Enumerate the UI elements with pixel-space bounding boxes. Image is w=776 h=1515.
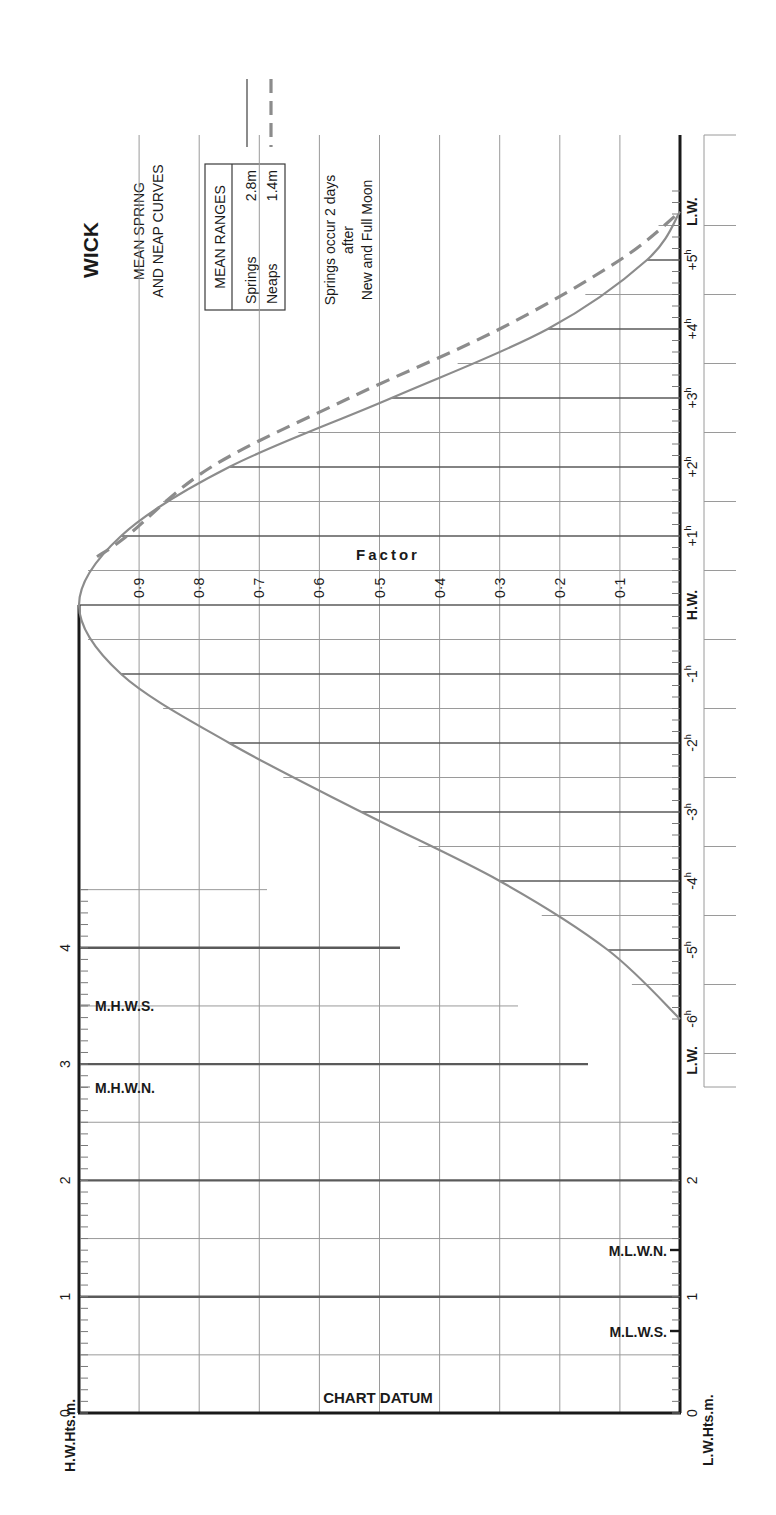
mean-ranges-header: MEAN RANGES — [212, 185, 228, 288]
factor-tick-label: 0·7 — [251, 578, 267, 598]
springs-label: Springs — [243, 257, 259, 304]
tidal-curve-diagram: WICK MEAN SPRING AND NEAP CURVES MEAN RA… — [0, 0, 776, 1515]
time-label-p3: +3h — [683, 388, 700, 409]
lw-height-labels: 012 — [684, 1176, 700, 1417]
time-label-lw_start: L.W. — [684, 1046, 700, 1075]
factor-tick-label: 0·5 — [372, 578, 388, 598]
note-line-1: Springs occur 2 days — [322, 175, 338, 306]
hw-height-tick-label: 2 — [57, 1176, 73, 1184]
lw-height-tick-label: 2 — [684, 1176, 700, 1184]
side-time-box — [704, 135, 736, 1087]
factor-grid — [139, 135, 620, 1413]
hw-height-tick-label: 3 — [57, 1060, 73, 1068]
mlws-label: M.L.W.S. — [609, 1324, 667, 1340]
mean-ranges-box: MEAN RANGES Springs 2.8m Neaps 1.4m — [205, 164, 285, 310]
hw-height-tick-label: 4 — [57, 944, 73, 952]
station-title: WICK — [79, 222, 102, 278]
lw-axis-title: L.W.Hts.m. — [700, 1394, 716, 1466]
mhws-label: M.H.W.S. — [95, 998, 154, 1014]
springs-value: 2.8m — [243, 170, 259, 201]
factor-tick-label: 0·1 — [612, 578, 628, 598]
time-label-m2: -2h — [683, 734, 700, 751]
time-label-m5: -5h — [683, 941, 700, 958]
time-label-p2: +2h — [683, 457, 700, 478]
time-label-p1: +1h — [683, 526, 700, 547]
factor-tick-label: 0·3 — [492, 578, 508, 598]
hw-height-tick-label: 1 — [57, 1293, 73, 1301]
mlwn-label: M.L.W.N. — [609, 1243, 667, 1259]
time-label-m4: -4h — [683, 872, 700, 889]
note-line-2: after — [340, 226, 356, 254]
time-label-p5: +5h — [683, 250, 700, 271]
factor-axis-label: Factor — [356, 546, 420, 563]
hw-axis-title: H.W.Hts.m. — [62, 1399, 78, 1472]
subtitle-line-2: AND NEAP CURVES — [150, 164, 166, 297]
lw-height-tick-label: 1 — [684, 1293, 700, 1301]
time-label-m3: -3h — [683, 803, 700, 820]
time-label-m6: -6h — [683, 1010, 700, 1027]
neaps-curve — [97, 212, 680, 557]
factor-tick-label: 0·6 — [311, 578, 327, 598]
neaps-label: Neaps — [264, 264, 280, 304]
time-label-p4: +4h — [683, 319, 700, 340]
factor-tick-label: 0·8 — [191, 578, 207, 598]
hw-height-labels: 01234 — [57, 944, 73, 1417]
chart-datum-label: CHART DATUM — [323, 1389, 433, 1406]
lw-height-tick-label: 0 — [684, 1409, 700, 1417]
time-label-m1: -1h — [683, 665, 700, 682]
note-line-3: New and Full Moon — [359, 180, 375, 301]
time-label-hw: H.W. — [684, 590, 700, 620]
factor-tick-label: 0·2 — [552, 578, 568, 598]
neaps-value: 1.4m — [264, 170, 280, 201]
mhwn-label: M.H.W.N. — [95, 1080, 155, 1096]
tidal-curve-chart: WICK MEAN SPRING AND NEAP CURVES MEAN RA… — [0, 0, 776, 1515]
factor-tick-labels: 0·90·80·70·60·50·40·30·20·1 — [131, 578, 628, 598]
time-labels: L.W.-6h-5h-4h-3h-2h-1hH.W.+1h+2h+3h+4h+5… — [683, 197, 700, 1074]
factor-tick-label: 0·4 — [432, 578, 448, 598]
factor-tick-label: 0·9 — [131, 578, 147, 598]
time-label-lw_end: L.W. — [684, 197, 700, 226]
